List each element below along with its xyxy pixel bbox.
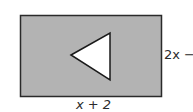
height-label: 2x − (164, 47, 193, 62)
width-label: x + 2 (76, 97, 111, 112)
